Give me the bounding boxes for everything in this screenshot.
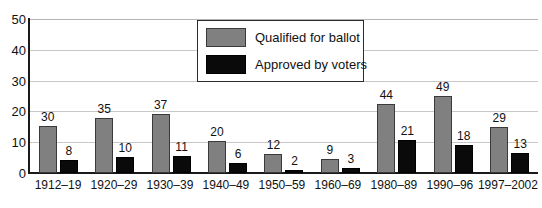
bar-group: 29 13 — [482, 19, 538, 173]
bar-value-label: 12 — [267, 139, 280, 151]
bar-approved: 18 — [455, 145, 473, 173]
bar-approved: 6 — [229, 163, 247, 173]
bar-qualified: 49 — [434, 96, 452, 173]
y-tick-label: 40 — [0, 44, 26, 57]
bar-approved: 10 — [116, 157, 134, 173]
x-tick-label: 1950–59 — [254, 178, 310, 192]
bar-value-label: 18 — [457, 130, 470, 142]
y-tick-label: 30 — [0, 75, 26, 88]
bar-value-label: 9 — [327, 144, 334, 156]
x-tick-label: 1930–39 — [142, 178, 198, 192]
bar-value-label: 3 — [348, 153, 355, 165]
bar-group: 30 8 — [30, 19, 86, 173]
y-tick-label: 20 — [0, 105, 26, 118]
bar-approved: 2 — [285, 170, 303, 173]
bar-approved: 3 — [342, 168, 360, 173]
bar-approved: 13 — [511, 153, 529, 173]
y-tick-label: 10 — [0, 136, 26, 149]
x-tick-label: 1997–2002 — [478, 178, 538, 192]
bar-approved: 8 — [60, 160, 78, 173]
bar-group: 49 18 — [425, 19, 481, 173]
bar-value-label: 13 — [514, 138, 527, 150]
chart-legend: Qualified for ballot Approved by voters — [197, 20, 364, 82]
bar-value-label: 30 — [41, 111, 54, 123]
bar-value-label: 44 — [380, 89, 393, 101]
bar-group: 37 11 — [143, 19, 199, 173]
x-tick-label: 1940–49 — [198, 178, 254, 192]
bar-qualified: 35 — [95, 118, 113, 173]
x-tick-label: 1980–89 — [366, 178, 422, 192]
bar-value-label: 37 — [154, 99, 167, 111]
x-tick-label: 1920–29 — [86, 178, 142, 192]
bar-qualified: 29 — [490, 127, 508, 173]
bar-qualified: 30 — [39, 126, 57, 173]
legend-item-qualified: Qualified for ballot — [206, 27, 355, 48]
bar-qualified: 44 — [377, 104, 395, 173]
bar-qualified: 9 — [321, 159, 339, 173]
bar-value-label: 6 — [235, 148, 242, 160]
bar-value-label: 11 — [175, 141, 187, 153]
bar-group: 35 10 — [86, 19, 142, 173]
bar-value-label: 29 — [493, 112, 506, 124]
bar-qualified: 12 — [264, 154, 282, 173]
bar-value-label: 10 — [118, 142, 131, 154]
bar-chart: 50 40 30 20 10 0 30 8 35 10 — [0, 0, 542, 208]
bar-value-label: 35 — [97, 103, 110, 115]
bar-qualified: 37 — [152, 114, 170, 173]
x-tick-label: 1912–19 — [30, 178, 86, 192]
legend-item-approved: Approved by voters — [206, 54, 355, 75]
x-axis-tick-labels: 1912–19 1920–29 1930–39 1940–49 1950–59 … — [30, 178, 538, 192]
bar-value-label: 21 — [401, 125, 414, 137]
x-tick-label: 1990–96 — [422, 178, 478, 192]
y-axis-tick-labels: 50 40 30 20 10 0 — [0, 0, 26, 208]
bar-qualified: 20 — [208, 141, 226, 173]
bar-approved: 11 — [173, 156, 191, 173]
legend-label: Qualified for ballot — [255, 31, 360, 45]
bar-value-label: 20 — [210, 126, 223, 138]
x-tick-label: 1960–69 — [310, 178, 366, 192]
bar-approved: 21 — [398, 140, 416, 173]
bar-value-label: 8 — [65, 145, 72, 157]
y-tick-label: 50 — [0, 13, 26, 26]
bar-value-label: 49 — [436, 81, 449, 93]
y-tick-label: 0 — [0, 167, 26, 180]
legend-swatch-icon — [206, 55, 246, 74]
bar-value-label: 2 — [291, 155, 298, 167]
legend-swatch-icon — [206, 28, 246, 47]
bar-group: 44 21 — [369, 19, 425, 173]
legend-label: Approved by voters — [255, 58, 367, 72]
